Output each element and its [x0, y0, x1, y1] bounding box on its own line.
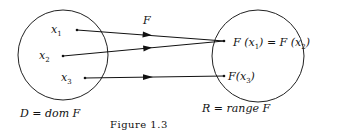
arrow-x3-to-fx3: [85, 74, 224, 80]
point-x3-label: x3: [61, 71, 72, 86]
range-set-circle: [212, 10, 304, 102]
point-x2-label: x2: [39, 49, 50, 64]
arrow-x2-to-fx1: [63, 41, 224, 56]
range-label: R = range F: [201, 102, 270, 115]
image-f-x1-eq-f-x2-label: F (x1) = F (x2): [232, 36, 310, 51]
domain-label: D = dom F: [19, 107, 81, 120]
mapping-label: F: [142, 14, 151, 27]
figure-caption: Figure 1.3: [110, 119, 168, 130]
image-f-x3-label: F(x3): [227, 70, 255, 85]
point-x1-label: x1: [51, 23, 62, 38]
arrow-x1-to-fx1: [77, 30, 224, 41]
function-mapping-diagram: F x1 x2 x3 F (x1) = F (x2) F(x3) D = dom…: [0, 0, 350, 133]
